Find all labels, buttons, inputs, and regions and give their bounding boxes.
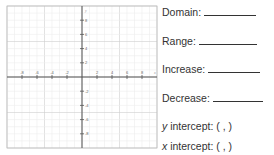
y-intercept-label: intercept: ( , ) xyxy=(167,120,232,132)
x-axis-label: x xyxy=(153,70,156,75)
x-tick-label: -8 xyxy=(20,70,24,75)
increase-field[interactable]: Increase: xyxy=(162,63,260,75)
range-label: Range: xyxy=(162,35,196,47)
coordinate-grid[interactable]: -8-6-4-224688642-2-4-6-8xy xyxy=(0,0,160,155)
x-tick-label: 2 xyxy=(96,70,99,75)
range-field[interactable]: Range: xyxy=(162,35,257,47)
domain-blank[interactable] xyxy=(204,6,256,16)
x-tick-label: -4 xyxy=(50,70,54,75)
y-intercept-field[interactable]: y intercept: ( , ) xyxy=(162,120,232,132)
domain-field[interactable]: Domain: xyxy=(162,6,256,18)
range-blank[interactable] xyxy=(199,35,257,45)
x-intercept-label: intercept: ( , ) xyxy=(167,140,232,152)
x-tick-label: -2 xyxy=(65,70,69,75)
decrease-field[interactable]: Decrease: xyxy=(162,92,263,104)
y-axis-label: y xyxy=(84,8,87,13)
domain-label: Domain: xyxy=(162,6,201,18)
x-intercept-field[interactable]: x intercept: ( , ) xyxy=(162,140,232,152)
x-tick-label: 6 xyxy=(126,70,129,75)
x-tick-label: 8 xyxy=(141,70,144,75)
increase-blank[interactable] xyxy=(208,63,260,73)
increase-label: Increase: xyxy=(162,63,205,75)
x-tick-label: 4 xyxy=(111,70,114,75)
decrease-label: Decrease: xyxy=(162,92,210,104)
decrease-blank[interactable] xyxy=(213,92,263,102)
x-tick-label: -6 xyxy=(35,70,39,75)
